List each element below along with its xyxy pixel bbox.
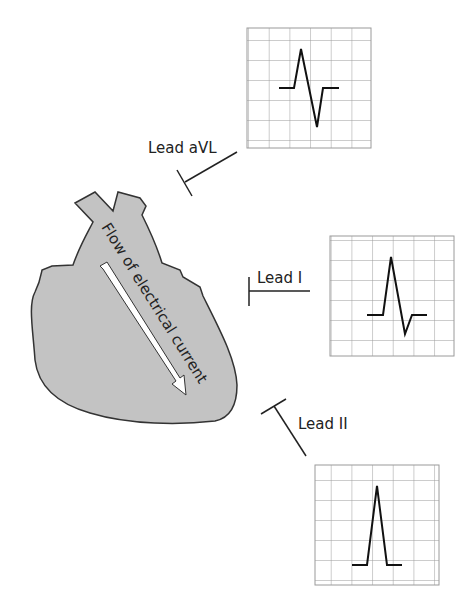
ecg-lead-diagram: Flow of electrical current Lead aVL Lead…	[0, 0, 475, 599]
lead-avl-electrode	[177, 152, 237, 196]
ecg-panel-lead-i	[330, 236, 454, 356]
ecg-panel-lead-ii	[315, 465, 439, 585]
lead-i-label: Lead I	[257, 269, 302, 287]
lead-ii-label: Lead II	[298, 415, 348, 433]
ecg-panel-avl	[247, 28, 371, 148]
lead-avl-label: Lead aVL	[148, 139, 217, 157]
